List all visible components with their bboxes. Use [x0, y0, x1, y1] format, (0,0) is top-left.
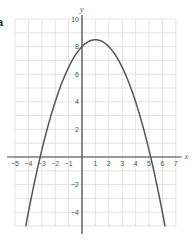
y-tick-label: 8: [75, 43, 79, 50]
x-tick-label: 4: [134, 160, 138, 167]
y-tick-label: 2: [75, 126, 79, 133]
x-tick-label: −4: [24, 160, 32, 167]
x-tick-label: 6: [160, 160, 164, 167]
x-tick-label: 3: [120, 160, 124, 167]
y-axis-label: y: [79, 5, 84, 14]
x-tick-label: 1: [93, 160, 97, 167]
x-tick-label: −5: [11, 160, 19, 167]
x-axis-label: x: [184, 152, 189, 161]
x-tick-label: 2: [107, 160, 111, 167]
x-tick-label: 7: [174, 160, 178, 167]
y-tick-label: 6: [75, 71, 79, 78]
x-tick-label: 5: [147, 160, 151, 167]
x-tick-label: −2: [51, 160, 59, 167]
y-tick-label: −4: [71, 209, 79, 216]
parabola-graph: xy−5−4−3−2−11234567−4−2246810: [0, 0, 192, 243]
y-tick-label: 10: [71, 16, 79, 23]
y-tick-label: 4: [75, 98, 79, 105]
x-tick-label: −1: [65, 160, 73, 167]
y-tick-label: −2: [71, 181, 79, 188]
